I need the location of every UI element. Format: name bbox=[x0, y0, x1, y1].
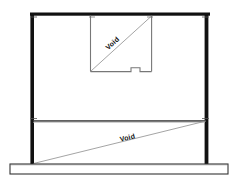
top-beam bbox=[30, 13, 210, 16]
elevation-drawing: Void Void bbox=[0, 0, 238, 181]
elevation-canvas: Void Void bbox=[0, 0, 238, 181]
right-column bbox=[205, 13, 209, 164]
mid-level-beam bbox=[33, 120, 205, 122]
left-column bbox=[30, 13, 34, 164]
drawing-background bbox=[0, 0, 238, 181]
base-slab bbox=[10, 164, 228, 174]
